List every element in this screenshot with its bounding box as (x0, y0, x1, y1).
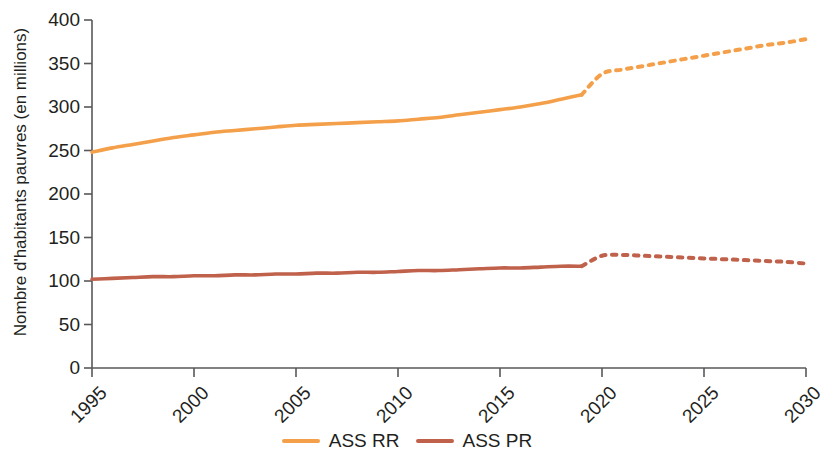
series-lines (92, 39, 806, 279)
y-axis-tick-label: 350 (28, 53, 80, 75)
series-line-solid-ass-pr (92, 266, 582, 279)
y-axis-tick-label: 0 (28, 357, 80, 379)
series-line-solid-ass-rr (92, 95, 582, 152)
axes (84, 20, 806, 377)
y-axis-tick-label: 50 (28, 314, 80, 336)
series-line-projected-ass-rr (582, 39, 806, 95)
y-axis-tick-label: 300 (28, 96, 80, 118)
legend-label: ASS PR (463, 430, 533, 452)
chart-legend: ASS RRASS PR (0, 430, 814, 452)
y-axis-tick-label: 250 (28, 140, 80, 162)
legend-entry[interactable]: ASS RR (282, 430, 400, 452)
legend-label: ASS RR (329, 430, 400, 452)
legend-swatch-ass-rr (282, 439, 320, 443)
y-axis-tick-label: 400 (28, 9, 80, 31)
y-axis-tick-label: 100 (28, 270, 80, 292)
legend-entry[interactable]: ASS PR (416, 430, 533, 452)
series-line-projected-ass-pr (582, 255, 806, 267)
legend-swatch-ass-pr (416, 439, 454, 443)
y-axis-tick-label: 200 (28, 183, 80, 205)
y-axis-tick-label: 150 (28, 227, 80, 249)
